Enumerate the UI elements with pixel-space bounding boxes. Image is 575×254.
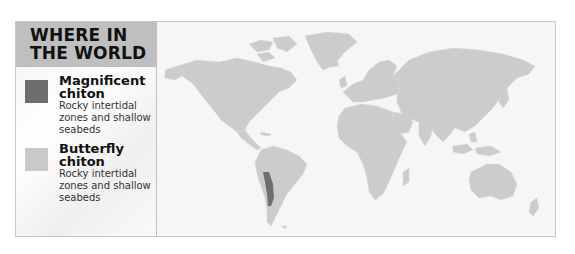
legend-item-name: Butterfly chiton (59, 142, 155, 168)
where-in-the-world-panel: WHERE IN THE WORLD Magnificent chiton Ro… (15, 21, 556, 237)
swatch-dark-icon (25, 80, 48, 103)
world-map-icon (157, 22, 555, 236)
legend-panel: WHERE IN THE WORLD Magnificent chiton Ro… (16, 22, 157, 236)
legend-title: WHERE IN THE WORLD (30, 26, 155, 62)
legend-item-description: Rocky intertidal zones and shallow seabe… (59, 100, 155, 136)
legend-header: WHERE IN THE WORLD (16, 22, 156, 67)
world-map (157, 22, 555, 236)
legend-item-description: Rocky intertidal zones and shallow seabe… (59, 168, 155, 204)
legend-item-name: Magnificent chiton (59, 74, 155, 100)
swatch-light-icon (25, 148, 48, 171)
